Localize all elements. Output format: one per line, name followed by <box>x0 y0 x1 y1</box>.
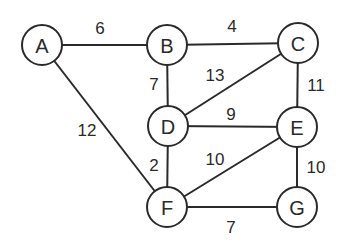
weight-d-c: 13 <box>206 66 225 85</box>
node-g-label: G <box>289 197 305 219</box>
weight-e-g: 10 <box>307 158 326 177</box>
weight-d-f: 2 <box>149 156 158 175</box>
node-f: F <box>147 187 187 227</box>
node-g: G <box>277 187 317 227</box>
node-d: D <box>148 106 188 146</box>
graph-diagram: 6 4 7 12 13 11 9 2 10 10 7 A B C D E F G <box>0 0 346 242</box>
weight-c-e: 11 <box>307 76 325 95</box>
weight-b-d: 7 <box>149 75 158 94</box>
node-c: C <box>278 23 318 63</box>
node-b: B <box>147 25 187 65</box>
node-a: A <box>22 25 62 65</box>
edge-f-e <box>167 127 297 207</box>
node-a-label: A <box>35 35 49 57</box>
node-d-label: D <box>161 116 175 138</box>
node-f-label: F <box>161 197 173 219</box>
weight-b-c: 4 <box>227 17 236 36</box>
node-b-label: B <box>160 35 173 57</box>
weight-f-e: 10 <box>206 150 225 169</box>
node-e-label: E <box>290 117 303 139</box>
weight-d-e: 9 <box>226 105 235 124</box>
weight-a-f: 12 <box>78 121 97 140</box>
weight-f-g: 7 <box>226 218 235 237</box>
weight-a-b: 6 <box>95 19 104 38</box>
node-c-label: C <box>291 33 305 55</box>
node-e: E <box>277 107 317 147</box>
